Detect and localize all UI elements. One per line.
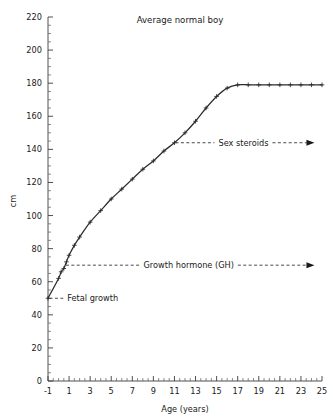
data-point-marker xyxy=(235,83,240,88)
x-tick-label: 25 xyxy=(317,386,327,396)
data-point-marker xyxy=(246,83,251,88)
x-axis-ticks xyxy=(48,376,322,381)
growth-chart-figure: Average normal boy 020406080100120140160… xyxy=(0,0,333,420)
data-point-marker xyxy=(67,253,72,258)
annotation-arrowhead-icon xyxy=(306,262,314,268)
y-tick-label: 0 xyxy=(37,376,42,386)
x-axis-tick-labels: -1135791113151719212325 xyxy=(44,386,327,396)
y-tick-label: 60 xyxy=(32,277,42,287)
data-point-marker xyxy=(278,83,283,88)
annotation-arrowhead-icon xyxy=(306,140,314,146)
y-axis: 020406080100120140160180200220 cm xyxy=(8,12,53,386)
x-tick-label: 1 xyxy=(66,386,71,396)
x-tick-label: 11 xyxy=(169,386,179,396)
y-axis-title: cm xyxy=(8,195,18,208)
chart-title: Average normal boy xyxy=(137,15,224,25)
y-tick-label: 180 xyxy=(26,78,42,88)
data-point-marker xyxy=(64,260,69,265)
y-tick-label: 220 xyxy=(26,12,42,22)
data-point-marker xyxy=(299,83,304,88)
data-point-marker xyxy=(320,83,325,88)
data-point-marker xyxy=(309,83,314,88)
data-point-marker xyxy=(267,83,272,88)
x-tick-label: 5 xyxy=(109,386,114,396)
y-tick-label: 100 xyxy=(26,211,42,221)
x-tick-label: 9 xyxy=(151,386,156,396)
x-tick-label: 23 xyxy=(296,386,306,396)
x-tick-label: 7 xyxy=(130,386,135,396)
annotation-fetal-growth: Fetal growth xyxy=(50,293,119,303)
x-tick-label: 17 xyxy=(232,386,242,396)
annotation-sex-steroids: Sex steroids xyxy=(176,138,315,148)
y-tick-label: 20 xyxy=(32,343,42,353)
y-tick-label: 200 xyxy=(26,45,42,55)
x-tick-label: 13 xyxy=(190,386,200,396)
annotation-growth-hormone: Growth hormone (GH) xyxy=(66,260,315,270)
x-tick-label: 19 xyxy=(254,386,264,396)
x-tick-label: 21 xyxy=(275,386,285,396)
y-tick-label: 120 xyxy=(26,177,42,187)
x-axis-title: Age (years) xyxy=(161,404,208,414)
annotations-group: Fetal growthGrowth hormone (GH)Sex stero… xyxy=(50,138,315,304)
annotation-label: Sex steroids xyxy=(218,138,268,148)
y-tick-label: 80 xyxy=(32,244,42,254)
y-axis-ticks xyxy=(48,17,53,381)
data-point-marker xyxy=(256,83,261,88)
x-tick-label: -1 xyxy=(44,386,52,396)
y-tick-label: 40 xyxy=(32,310,42,320)
y-tick-label: 140 xyxy=(26,144,42,154)
x-tick-label: 15 xyxy=(211,386,221,396)
data-point-marker xyxy=(288,83,293,88)
x-tick-label: 3 xyxy=(88,386,93,396)
y-tick-label: 160 xyxy=(26,111,42,121)
y-axis-tick-labels: 020406080100120140160180200220 xyxy=(26,12,42,386)
annotation-label: Fetal growth xyxy=(67,293,118,303)
growth-chart-panel: Average normal boy 020406080100120140160… xyxy=(0,0,333,420)
data-point-marker xyxy=(56,276,61,281)
annotation-label: Growth hormone (GH) xyxy=(144,260,234,270)
x-axis: -1135791113151719212325 Age (years) xyxy=(44,376,327,414)
